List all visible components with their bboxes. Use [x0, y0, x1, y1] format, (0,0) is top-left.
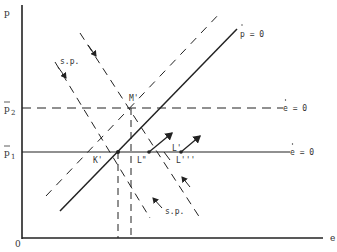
p-dot-zero-line — [60, 29, 237, 211]
saddle-arrow-4 — [182, 177, 190, 187]
point-k-label: K' — [93, 156, 103, 165]
point-m-label: M' — [129, 94, 139, 103]
saddle-arrow-2 — [58, 67, 66, 78]
e-dot-zero-upper-label: e = 0 — [283, 104, 307, 113]
phase-diagram: p e 0 p 2 p 1 p = 0 e = 0 e = 0 s.p. s.p… — [0, 0, 337, 252]
point-l2-label: L" — [137, 156, 147, 165]
point-l2 — [147, 150, 151, 154]
p1-subscript: 1 — [11, 153, 15, 161]
p2-label: p — [4, 104, 10, 114]
saddle-arrow-1 — [88, 45, 96, 56]
saddle-arrow-3 — [153, 198, 162, 208]
p-dot — [241, 24, 242, 25]
e-dot-zero-lower-label: e = 0 — [290, 148, 314, 157]
trajectory-l2 — [149, 133, 172, 152]
saddle-path-upper-label: s.p. — [60, 57, 79, 66]
point-k — [116, 150, 120, 154]
shifted-p-dot-zero-line — [46, 12, 221, 196]
p1-label: p — [4, 148, 10, 158]
saddle-path-upper — [80, 33, 200, 218]
point-l1-label: L' — [172, 144, 182, 153]
saddle-path-lower — [55, 62, 150, 218]
saddle-path-lower-label: s.p. — [165, 207, 184, 216]
y-axis-label: p — [4, 8, 10, 18]
p2-subscript: 2 — [11, 109, 15, 117]
point-l3-label: L''' — [176, 156, 195, 165]
e-dot-lower — [292, 143, 293, 144]
e-dot-upper — [285, 99, 286, 100]
p-dot-zero-label: p = 0 — [240, 30, 264, 39]
trajectory-l3 — [181, 136, 200, 152]
saddle-arrow-5 — [164, 152, 170, 160]
x-axis-label: e — [330, 233, 335, 243]
origin-label: 0 — [15, 239, 21, 249]
